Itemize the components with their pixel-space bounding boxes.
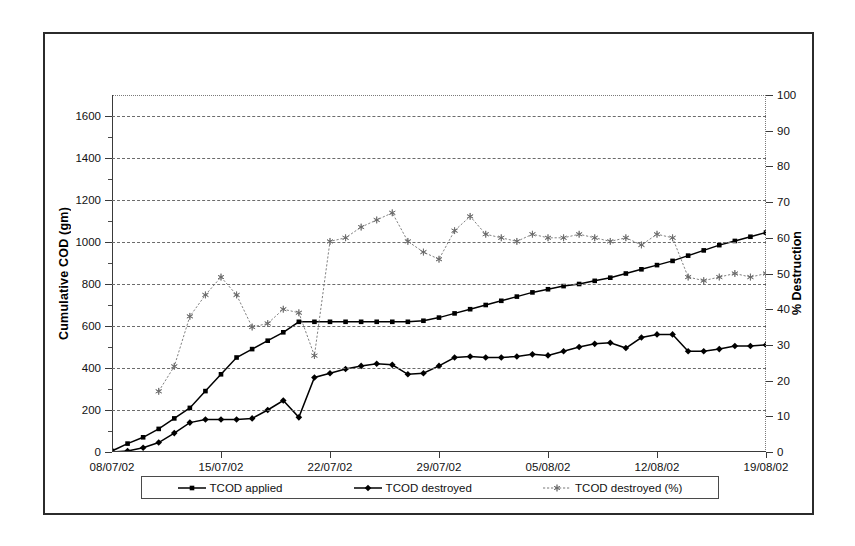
gridline [112,284,766,285]
y-axis-left-tick [105,326,112,327]
legend-item: TCOD destroyed [354,482,472,494]
y-axis-right-tick-label: 30 [777,339,790,351]
gridline [112,116,766,117]
x-axis-tick-label: 12/08/02 [635,461,680,473]
y-axis-right-tick-label: 100 [777,89,796,101]
y-axis-left-tick-label: 1200 [75,194,101,206]
y-axis-right-tick [766,95,773,96]
y-axis-left-tick [105,452,112,453]
y-axis-left-minor-tick [108,347,112,348]
y-axis-right-title: % Destruction [788,95,806,452]
x-axis-tick [766,452,767,458]
x-axis-tick-label: 22/07/02 [308,461,353,473]
y-axis-left-minor-tick [108,137,112,138]
y-axis-right-tick-label: 90 [777,125,790,137]
chart-figure: Cumulative COD (gm) % Destruction 020040… [43,32,814,515]
y-axis-right-tick-label: 70 [777,196,790,208]
y-axis-right-tick-label: 80 [777,160,790,172]
y-axis-left-tick-label: 200 [82,404,101,416]
y-axis-right-tick-label: 0 [777,446,783,458]
legend-item-label: TCOD destroyed (%) [575,482,682,494]
y-axis-left-tick [105,116,112,117]
y-axis-right-tick [766,131,773,132]
gridline [112,368,766,369]
chart-legend: TCOD appliedTCOD destroyedTCOD destroyed… [141,476,719,499]
y-axis-left-minor-tick [108,305,112,306]
y-axis-left-minor-tick [108,221,112,222]
y-axis-right-tick [766,381,773,382]
y-axis-right-tick-label: 50 [777,268,790,280]
x-axis-tick-label: 05/08/02 [526,461,571,473]
x-axis-tick-label: 15/07/02 [199,461,244,473]
square-marker [178,482,206,494]
y-axis-right-tick [766,309,773,310]
y-axis-left-minor-tick [108,179,112,180]
y-axis-right-tick [766,345,773,346]
y-axis-right-tick-label: 10 [777,410,790,422]
y-axis-right-tick [766,238,773,239]
legend-item: TCOD applied [178,482,283,494]
y-axis-right-tick [766,416,773,417]
gridline [112,158,766,159]
y-axis-left-tick [105,284,112,285]
y-axis-left-tick-label: 1000 [75,236,101,248]
x-axis-tick [548,452,549,458]
y-axis-right-tick-label: 60 [777,232,790,244]
y-axis-left-tick-label: 1600 [75,110,101,122]
x-axis-tick [439,452,440,458]
y-axis-left-title: Cumulative COD (gm) [55,95,73,452]
gridline [112,242,766,243]
y-axis-right-tick [766,166,773,167]
y-axis-left-tick [105,242,112,243]
legend-item-label: TCOD applied [210,482,283,494]
y-axis-left-tick-label: 600 [82,320,101,332]
x-axis-tick [330,452,331,458]
y-axis-right-tick-label: 20 [777,375,790,387]
y-axis-right-tick [766,274,773,275]
diamond-marker [354,482,382,494]
plot-frame-top [112,95,766,96]
y-axis-left-tick [105,410,112,411]
gridline [112,326,766,327]
x-axis-tick-label: 19/08/02 [744,461,789,473]
y-axis-left-tick-label: 400 [82,362,101,374]
x-axis-tick [657,452,658,458]
x-axis-tick-label: 29/07/02 [417,461,462,473]
series-3 [156,209,766,394]
gridline [112,410,766,411]
y-axis-left-tick-label: 0 [95,446,101,458]
y-axis-left-tick [105,200,112,201]
y-axis-left-tick-label: 800 [82,278,101,290]
y-axis-left-minor-tick [108,389,112,390]
legend-item-label: TCOD destroyed [386,482,472,494]
y-axis-right-tick [766,202,773,203]
y-axis-right-tick-label: 40 [777,303,790,315]
plot-area: 02004006008001000120014001600 0102030405… [112,95,766,452]
star-marker [543,482,571,494]
x-axis-tick [221,452,222,458]
legend-item: TCOD destroyed (%) [543,482,682,494]
y-axis-left-tick [105,158,112,159]
y-axis-right-tick [766,452,773,453]
x-axis-tick-label: 08/07/02 [90,461,135,473]
gridline [112,200,766,201]
y-axis-left-minor-tick [108,263,112,264]
y-axis-left-line [112,95,113,452]
y-axis-left-tick [105,368,112,369]
data-series-layer [112,95,766,452]
y-axis-left-minor-tick [108,431,112,432]
y-axis-left-tick-label: 1400 [75,152,101,164]
series-2 [112,331,766,452]
